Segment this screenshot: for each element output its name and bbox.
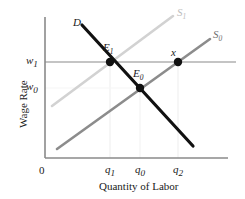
point-e1 <box>106 58 114 66</box>
y-tick-w1-sub: 1 <box>33 59 38 69</box>
curve-label-s1: S1 <box>177 7 186 21</box>
curve-label-s0-sub: 0 <box>219 34 223 43</box>
point-label-x: x <box>171 47 176 58</box>
x-axis-title: Quantity of Labor <box>99 181 178 192</box>
point-label-e0: E0 <box>133 68 143 82</box>
x-tick-q2-sub: 2 <box>179 168 184 178</box>
x-tick-label-q1: q1 <box>105 164 115 178</box>
point-label-e1-base: E <box>103 41 110 53</box>
curve-label-d-base: D <box>73 16 81 28</box>
x-tick-label-q2: q2 <box>173 164 183 178</box>
point-label-e1-sub: 1 <box>110 47 114 56</box>
point-label-e0-sub: 0 <box>140 73 144 82</box>
point-label-e1: E1 <box>103 42 113 56</box>
point-e0 <box>136 84 144 92</box>
supply-curve-s0 <box>57 39 210 149</box>
x-tick-q1-sub: 1 <box>111 168 116 178</box>
y-tick-label-w1: w1 <box>26 55 38 69</box>
origin-tick-label: 0 <box>39 165 45 176</box>
curve-label-s1-sub: 1 <box>183 12 187 21</box>
chart-canvas <box>0 0 245 199</box>
curve-label-d: D <box>73 17 81 28</box>
y-tick-label-w0: w0 <box>26 81 38 95</box>
point-label-x-base: x <box>171 46 176 58</box>
curve-label-s0: S0 <box>213 29 222 43</box>
y-tick-w0-sub: 0 <box>33 85 38 95</box>
point-x <box>174 58 182 66</box>
wage-rate-labor-supply-demand-chart: Wage Rate Quantity of Labor 0 w1 w0 q1 q… <box>0 0 245 199</box>
point-label-e0-base: E <box>133 67 140 79</box>
x-tick-q0-sub: 0 <box>141 168 146 178</box>
x-tick-label-q0: q0 <box>135 164 145 178</box>
